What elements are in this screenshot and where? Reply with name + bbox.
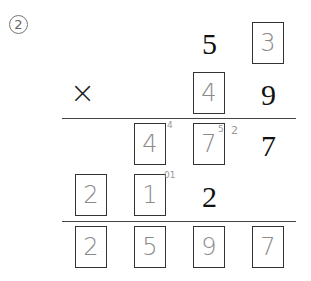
handwritten-digit: 1 [135, 175, 165, 215]
answer-box-partial2-thousands[interactable]: 2 [75, 174, 107, 216]
handwritten-digit: 2 [76, 175, 106, 215]
handwritten-digit: 9 [194, 227, 224, 267]
answer-box-partial1-hundreds[interactable]: 4 [134, 123, 166, 165]
problem-number-badge: 2 [9, 15, 28, 34]
handwritten-digit: 3 [253, 23, 283, 63]
answer-box-multiplicand-ones[interactable]: 3 [252, 22, 284, 64]
handwritten-digit: 4 [194, 73, 224, 113]
partial1-ones: 7 [252, 131, 285, 161]
carry-note: 2 [231, 124, 238, 137]
answer-box-multiplier-tens[interactable]: 4 [193, 72, 225, 114]
answer-box-partial2-hundreds[interactable]: 1 [134, 174, 166, 216]
carry-note: 4 [167, 120, 173, 130]
handwritten-digit: 2 [76, 227, 106, 267]
answer-box-result-tens[interactable]: 9 [193, 226, 225, 268]
answer-box-result-ones[interactable]: 7 [252, 226, 284, 268]
divider-line-2 [62, 221, 296, 222]
handwritten-digit: 7 [253, 227, 283, 267]
carry-note: 5 [218, 124, 224, 134]
handwritten-digit: 5 [135, 227, 165, 267]
carry-note: 01 [164, 170, 175, 180]
answer-box-result-hundreds[interactable]: 5 [134, 226, 166, 268]
multiplicand-tens: 5 [193, 29, 226, 59]
divider-line-1 [62, 118, 296, 119]
answer-box-result-thousands[interactable]: 2 [75, 226, 107, 268]
multiplier-ones: 9 [252, 80, 285, 110]
handwritten-digit: 4 [135, 124, 165, 164]
multiply-sign: × [70, 78, 95, 108]
partial2-tens: 2 [193, 182, 226, 212]
